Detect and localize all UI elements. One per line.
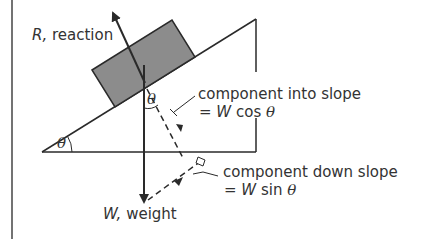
base-angle-label: θ [57,134,66,152]
weight-label: W, weight [103,205,177,223]
into-slope-arrowhead-icon [176,124,183,132]
right-angle-marker [196,157,205,166]
inclined-plane-diagram: θ θ R, reaction component into slope = W… [0,0,448,239]
component-into-slope-arrow [147,89,183,158]
reaction-label: R, reaction [32,26,113,44]
component-down-slope-arrow [148,161,201,200]
into-slope-leader [174,96,195,112]
down-slope-label: component down slope [223,163,398,181]
down-slope-equation: = W sin θ [224,181,296,199]
down-slope-arrowhead-icon [174,177,183,186]
into-slope-label: component into slope [198,85,361,103]
into-slope-equation: = W cos θ [199,103,275,121]
base-angle-arc [68,136,73,152]
down-slope-leader [193,172,218,176]
